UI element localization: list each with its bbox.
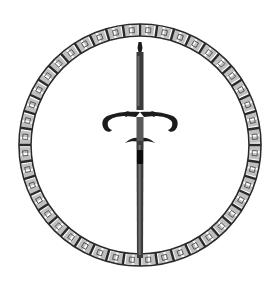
chain-link-divider (156, 253, 158, 265)
sword-pommel (138, 42, 143, 52)
emblem-canvas (0, 0, 279, 285)
chain-link-divider (20, 161, 32, 163)
chain-link-divider (123, 25, 125, 37)
chain-link-divider (156, 25, 158, 37)
chain-link-divider (248, 161, 260, 163)
chain-link-divider (123, 253, 125, 265)
chain-link-divider (248, 128, 260, 130)
sword-ring-emblem (0, 0, 279, 285)
sword-crossguard (102, 112, 140, 132)
chain-link-divider (20, 128, 32, 130)
sword (102, 42, 177, 258)
